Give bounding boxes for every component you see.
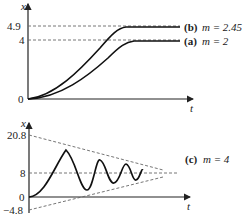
curve-a: [28, 41, 180, 99]
bottom-tick-8: 8: [20, 167, 26, 179]
top-tick-0: 0: [18, 93, 24, 105]
bottom-tick-neg-4-8: −4.8: [3, 204, 23, 216]
bottom-y-label: x: [20, 117, 26, 129]
figure: x t 0 4 4.9 (b) m = 2.45 (a) m = 2 x t 2…: [0, 0, 243, 224]
bottom-tick-0: 0: [19, 191, 25, 203]
legend-b-id: (b): [184, 21, 198, 34]
legend-c-text: m = 4: [203, 153, 230, 165]
top-chart: x t 0 4 4.9 (b) m = 2.45 (a) m = 2: [7, 0, 243, 114]
top-tick-4: 4: [19, 34, 25, 46]
curve-c: [29, 150, 143, 197]
bottom-tick-20-8: 20.8: [7, 129, 27, 141]
legend-c-id: (c): [185, 153, 198, 166]
curve-b: [28, 27, 180, 99]
top-x-label: t: [190, 102, 194, 114]
top-tick-4-9: 4.9: [7, 20, 21, 32]
legend-a-text: m = 2: [202, 35, 229, 47]
bottom-chart: x t 20.8 8 0 −4.8 (c) m = 4: [3, 117, 230, 216]
bottom-x-label: t: [187, 200, 191, 212]
envelope-lower: [29, 177, 163, 210]
legend-a-id: (a): [184, 35, 197, 48]
top-y-label: x: [20, 0, 26, 12]
legend-b-text: m = 2.45: [202, 21, 243, 33]
